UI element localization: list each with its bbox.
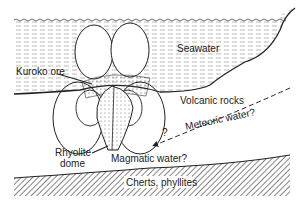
kuroko-deposit-diagram: Seawater Kuroko ore Volcanic rocks Meteo… <box>0 0 303 209</box>
seawater-convection-cell-right <box>111 23 149 77</box>
label-seawater: Seawater <box>177 43 220 54</box>
seawater-convection-cell-left <box>75 25 113 79</box>
label-volcanic-rocks: Volcanic rocks <box>180 95 244 106</box>
label-question: ? <box>162 127 168 138</box>
label-rhyolite: Rhyolite <box>55 147 92 158</box>
diagram-canvas: Seawater Kuroko ore Volcanic rocks Meteo… <box>0 0 303 209</box>
label-kuroko-ore: Kuroko ore <box>16 66 65 77</box>
label-magmatic-water: Magmatic water? <box>111 153 188 164</box>
rhyolite-dome-fill <box>97 86 133 150</box>
label-cherts-phyllites: Cherts, phyllites <box>126 177 197 188</box>
rhyolite-pointer <box>92 146 108 153</box>
label-meteoric-water: Meteoric water? <box>184 106 256 132</box>
label-dome: dome <box>60 158 85 169</box>
